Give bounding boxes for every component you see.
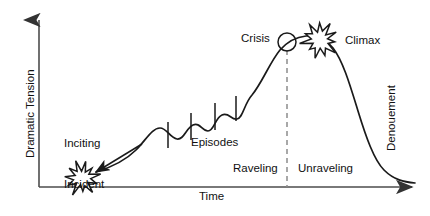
climax-label: Climax: [345, 34, 380, 48]
crisis-circle-marker: [278, 33, 296, 51]
inciting-incident-label-line2: Incident: [64, 178, 104, 192]
crisis-label: Crisis: [241, 32, 270, 46]
inciting-incident-label: Inciting Incident: [64, 110, 104, 216]
episodes-label: Episodes: [191, 136, 238, 150]
unraveling-label: Unraveling: [298, 162, 353, 176]
y-axis-label: Dramatic Tension: [24, 69, 38, 158]
narrative-arc-figure: Dramatic Tension Inciting Incident Episo…: [0, 0, 430, 216]
dramatic-arc-curve: [96, 36, 415, 183]
x-axis-label: Time: [199, 190, 224, 204]
inciting-incident-label-line1: Inciting: [64, 137, 104, 151]
starburst-climax-icon: [300, 23, 337, 58]
denouement-label: Denouement: [385, 85, 399, 151]
raveling-label: Raveling: [233, 162, 278, 176]
